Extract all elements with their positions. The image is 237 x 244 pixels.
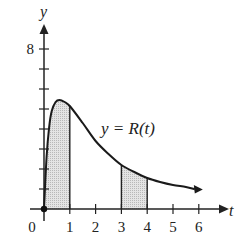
svg-text:5: 5 [169,219,177,235]
curve-label: y = R(t) [99,119,155,138]
svg-text:8: 8 [27,41,35,57]
svg-text:0: 0 [28,219,36,235]
curve-arrow-icon [194,185,203,194]
shaded-regions [44,100,147,209]
origin-point [41,206,47,212]
svg-text:4: 4 [143,219,151,235]
x-axis-label: t [229,202,234,219]
y-axis-label: y [38,3,48,21]
svg-text:3: 3 [118,219,126,235]
svg-text:6: 6 [195,219,203,235]
rate-function-graph: 01234568 y t y = R(t) [0,0,237,244]
svg-text:1: 1 [66,219,74,235]
svg-text:2: 2 [92,219,100,235]
